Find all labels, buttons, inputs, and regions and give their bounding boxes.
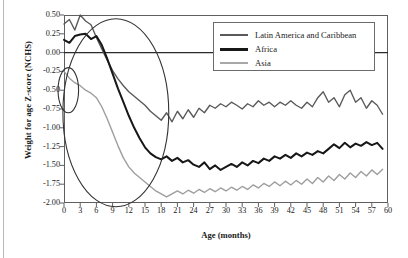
y-tick-label: -0.75 (30, 105, 60, 113)
y-tick-label: -0.25 (30, 67, 60, 75)
legend-item: Africa (220, 42, 374, 56)
y-tick-label: 0.50 (30, 11, 60, 19)
x-axis-tick-labels: 03691215182124273033363942454851545760 (0, 206, 408, 220)
y-tick-label: -0.50 (30, 86, 60, 94)
y-tick-label: 0.25 (30, 30, 60, 38)
legend-label: Asia (255, 58, 271, 68)
chart-legend: Latin America and CaribbeanAfricaAsia (213, 22, 375, 71)
y-tick-label: -1.75 (30, 180, 60, 188)
x-tick-label: 60 (377, 206, 399, 215)
chart-figure: Weight for age Z-score (NCHS) 0.500.250.… (0, 0, 408, 258)
legend-label: Latin America and Caribbean (255, 30, 356, 40)
y-tick-label: -1.50 (30, 161, 60, 169)
legend-color-swatch (220, 34, 248, 36)
x-axis-title: Age (months) (64, 230, 388, 240)
y-tick-label: -1.25 (30, 143, 60, 151)
legend-color-swatch (220, 48, 248, 51)
legend-color-swatch (220, 62, 248, 64)
legend-label: Africa (255, 44, 277, 54)
legend-item: Latin America and Caribbean (220, 28, 374, 42)
legend-item: Asia (220, 56, 374, 70)
y-tick-label: -1.00 (30, 124, 60, 132)
y-tick-label: 0.00 (30, 49, 60, 57)
